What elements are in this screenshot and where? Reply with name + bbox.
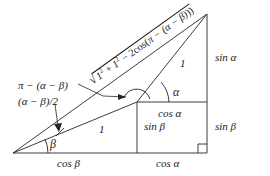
unit-length-upper-label: 1 bbox=[180, 58, 186, 69]
sin-alpha-label: sin α bbox=[215, 52, 236, 63]
half-angle-label: (α − β)/2 bbox=[18, 96, 58, 107]
half-angle-leader-shaft bbox=[55, 104, 58, 127]
unit-ray-lower bbox=[13, 102, 137, 153]
trigonometry-diagram: √12 + 12 − 2cos(π − (α − β))) π − (α − β… bbox=[0, 0, 270, 176]
cos-alpha-bottom-label: cos α bbox=[156, 158, 179, 169]
beta-angle-label: β bbox=[50, 138, 56, 150]
unit-length-lower-label: 1 bbox=[99, 124, 105, 135]
right-angle-marker bbox=[198, 144, 207, 153]
alpha-angle-arc bbox=[161, 82, 169, 102]
half-angle-tick bbox=[56, 128, 64, 136]
cos-beta-bottom-label: cos β bbox=[57, 158, 80, 169]
cos-alpha-mid-label: cos α bbox=[158, 108, 181, 119]
sin-beta-inner-label: sin β bbox=[144, 121, 165, 132]
alpha-angle-label: α bbox=[173, 86, 179, 98]
beta-angle-arc bbox=[45, 139, 48, 153]
supplement-angle-label: π − (α − β) bbox=[18, 80, 68, 91]
supplement-leader-line bbox=[78, 84, 103, 96]
sin-beta-outer-label: sin β bbox=[215, 121, 236, 132]
